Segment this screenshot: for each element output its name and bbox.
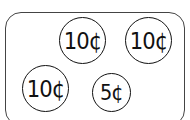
- coin-dime-1: 10¢: [59, 17, 106, 64]
- coin-label: 5¢: [100, 81, 123, 105]
- coin-dime-2: 10¢: [125, 17, 172, 64]
- coin-label: 10¢: [27, 76, 65, 102]
- coin-nickel: 5¢: [92, 73, 131, 112]
- coin-label: 10¢: [64, 28, 102, 54]
- coin-label: 10¢: [130, 28, 168, 54]
- coin-dime-3: 10¢: [22, 65, 69, 112]
